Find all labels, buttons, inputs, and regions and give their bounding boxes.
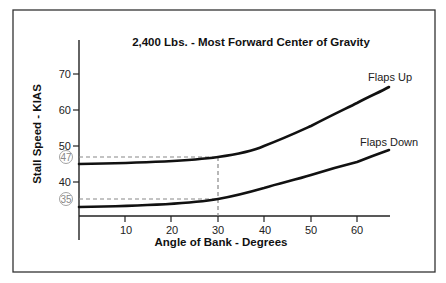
y-ticks: 70 60 50 40 [59,68,79,188]
svg-text:35: 35 [60,194,72,205]
stall-speed-chart: 2,400 Lbs. - Most Forward Center of Grav… [0,0,446,283]
x-ticks: 10 20 30 40 50 60 [120,216,363,236]
chart-title: 2,400 Lbs. - Most Forward Center of Grav… [132,36,370,48]
svg-text:47: 47 [60,152,72,163]
flaps-down-line [79,150,389,207]
x-tick-20: 20 [166,224,178,236]
y-tick-40: 40 [59,176,71,188]
x-axis-label: Angle of Bank - Degrees [155,236,288,248]
flaps-down-label: Flaps Down [360,136,418,148]
y-axis-label: Stall Speed - KIAS [31,84,43,184]
y-tick-70: 70 [59,68,71,80]
circled-35: 35 [60,193,73,206]
flaps-up-label: Flaps Up [368,71,412,83]
flaps-up-line [79,87,389,164]
x-tick-60: 60 [351,224,363,236]
y-tick-60: 60 [59,104,71,116]
x-tick-10: 10 [120,224,132,236]
x-tick-30: 30 [212,224,224,236]
x-tick-50: 50 [305,224,317,236]
circled-47: 47 [60,151,73,164]
x-tick-40: 40 [259,224,271,236]
